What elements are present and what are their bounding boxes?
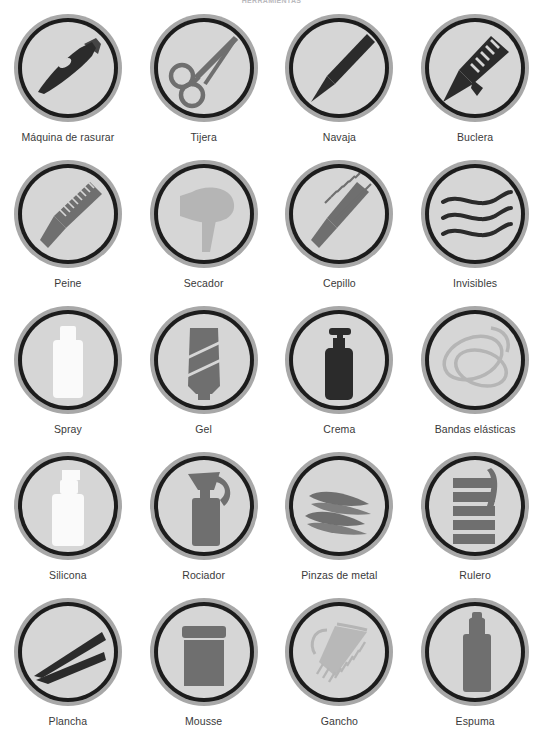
curling-iron-icon [429,22,521,114]
tool-badge-buclera[interactable] [421,14,529,122]
tool-cell-invisibles[interactable]: Invisibles [407,160,543,306]
tool-cell-secador[interactable]: Secador [136,160,272,306]
elastic-bands-icon [429,314,521,406]
tool-label-cepillo: Cepillo [323,277,356,290]
tool-badge-gancho[interactable] [285,598,393,706]
tool-badge-tijera[interactable] [150,14,258,122]
tool-label-rociador: Rociador [182,569,225,582]
trigger-sprayer-icon [158,460,250,552]
tool-badge-espuma[interactable] [421,598,529,706]
tool-badge-gel[interactable] [150,306,258,414]
tool-badge-maquina-de-rasurar[interactable] [14,14,122,122]
tool-label-plancha: Plancha [49,715,88,728]
hair-dryer-icon [158,168,250,260]
bobby-pins-icon [429,168,521,260]
tool-cell-plancha[interactable]: Plancha [0,598,136,743]
tool-label-crema: Crema [323,423,355,436]
hair-clip-icon [293,606,385,698]
tool-label-tijera: Tijera [190,131,216,144]
tool-badge-navaja[interactable] [285,14,393,122]
tool-cell-buclera[interactable]: Buclera [407,14,543,160]
razor-icon [293,22,385,114]
spray-bottle-icon [22,314,114,406]
tool-label-espuma: Espuma [456,715,495,728]
tool-label-navaja: Navaja [323,131,356,144]
hair-roller-icon [429,460,521,552]
tool-label-spray: Spray [54,423,82,436]
tool-badge-peine[interactable] [14,160,122,268]
tool-cell-bandas-elasticas[interactable]: Bandas elásticas [407,306,543,452]
tool-badge-secador[interactable] [150,160,258,268]
metal-clips-icon [293,460,385,552]
tool-label-invisibles: Invisibles [453,277,497,290]
tool-cell-rulero[interactable]: Rulero [407,452,543,598]
pump-bottle-icon [293,314,385,406]
tool-label-peine: Peine [54,277,81,290]
tool-cell-spray[interactable]: Spray [0,306,136,452]
scissors-icon [158,22,250,114]
tool-label-mousse: Mousse [185,715,222,728]
tool-label-secador: Secador [184,277,224,290]
tool-label-pinzas-de-metal: Pinzas de metal [301,569,377,582]
tool-badge-rulero[interactable] [421,452,529,560]
tool-badge-crema[interactable] [285,306,393,414]
tool-cell-silicona[interactable]: Silicona [0,452,136,598]
comb-icon [22,168,114,260]
tool-badge-rociador[interactable] [150,452,258,560]
tool-badge-invisibles[interactable] [421,160,529,268]
tool-cell-espuma[interactable]: Espuma [407,598,543,743]
mousse-jar-icon [158,606,250,698]
tool-cell-mousse[interactable]: Mousse [136,598,272,743]
clipper-icon [22,22,114,114]
page-title: HERRAMIENTAS [0,0,543,4]
tool-cell-cepillo[interactable]: Cepillo [272,160,408,306]
tool-label-buclera: Buclera [457,131,493,144]
tool-badge-silicona[interactable] [14,452,122,560]
tool-badge-plancha[interactable] [14,598,122,706]
tool-label-gancho: Gancho [321,715,358,728]
tool-label-rulero: Rulero [459,569,491,582]
tool-cell-gel[interactable]: Gel [136,306,272,452]
tool-label-maquina-de-rasurar: Máquina de rasurar [21,131,114,144]
silicone-bottle-icon [22,460,114,552]
aerosol-can-icon [429,606,521,698]
tool-label-silicona: Silicona [49,569,87,582]
tool-badge-pinzas-de-metal[interactable] [285,452,393,560]
flat-iron-icon [22,606,114,698]
tool-cell-crema[interactable]: Crema [272,306,408,452]
round-brush-icon [293,168,385,260]
tool-badge-spray[interactable] [14,306,122,414]
tool-badge-cepillo[interactable] [285,160,393,268]
tool-cell-peine[interactable]: Peine [0,160,136,306]
tool-cell-pinzas-de-metal[interactable]: Pinzas de metal [272,452,408,598]
tool-label-gel: Gel [195,423,212,436]
tool-cell-maquina-de-rasurar[interactable]: Máquina de rasurar [0,14,136,160]
tool-cell-gancho[interactable]: Gancho [272,598,408,743]
tool-cell-navaja[interactable]: Navaja [272,14,408,160]
tools-grid: Máquina de rasurarTijeraNavajaBucleraPei… [0,14,543,743]
tool-badge-mousse[interactable] [150,598,258,706]
tool-cell-rociador[interactable]: Rociador [136,452,272,598]
tool-cell-tijera[interactable]: Tijera [136,14,272,160]
tool-label-bandas-elasticas: Bandas elásticas [435,423,516,436]
tool-badge-bandas-elasticas[interactable] [421,306,529,414]
gel-tube-icon [158,314,250,406]
